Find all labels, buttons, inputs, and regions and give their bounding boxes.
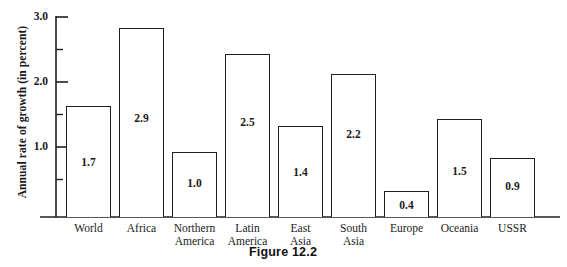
- bar-east-asia[interactable]: 1.4: [278, 126, 323, 218]
- bar-world[interactable]: 1.7: [66, 106, 111, 218]
- bar-value-europe: 0.4: [385, 199, 428, 211]
- bar-value-world: 1.7: [67, 156, 110, 168]
- bar-europe[interactable]: 0.4: [384, 191, 429, 218]
- figure-container: Annual rate of growth (in percent) 3.0 2…: [0, 0, 567, 267]
- bar-value-south-asia: 2.2: [332, 128, 375, 140]
- bar-northern-america[interactable]: 1.0: [172, 152, 217, 218]
- bar-value-latin-america: 2.5: [226, 116, 269, 128]
- plot-area: 3.0 2.0 1.0 1.7 2.9 1.0 2.5 1.4 2.2 0.4 …: [0, 0, 567, 230]
- y-tick-label-1: 1.0: [14, 141, 48, 152]
- y-tick-label-2: 2.0: [14, 76, 48, 87]
- bar-value-africa: 2.9: [120, 112, 163, 124]
- bar-oceania[interactable]: 1.5: [437, 119, 482, 218]
- bar-ussr[interactable]: 0.9: [490, 158, 535, 217]
- bar-value-ussr: 0.9: [491, 180, 534, 192]
- bar-value-northern-america: 1.0: [173, 177, 216, 189]
- bar-value-oceania: 1.5: [438, 165, 481, 177]
- bar-south-asia[interactable]: 2.2: [331, 74, 376, 218]
- bar-latin-america[interactable]: 2.5: [225, 54, 270, 218]
- bar-value-east-asia: 1.4: [279, 166, 322, 178]
- bar-africa[interactable]: 2.9: [119, 28, 164, 218]
- category-label-ussr: USSR: [480, 222, 545, 235]
- category-label-line: USSR: [480, 222, 545, 235]
- y-tick-label-3: 3.0: [14, 11, 48, 22]
- figure-caption: Figure 12.2: [203, 245, 363, 259]
